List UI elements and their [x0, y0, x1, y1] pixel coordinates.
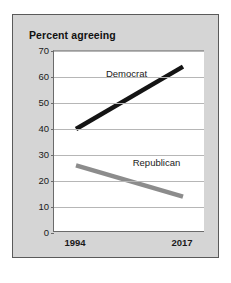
chart-panel: Percent agreeing 706050403020100 1994201… [12, 14, 219, 258]
y-axis-tick-mark [51, 51, 54, 52]
y-axis-tick-mark [51, 77, 54, 78]
y-axis-tick-labels: 706050403020100 [25, 50, 49, 232]
gridline [54, 181, 204, 182]
gridline [54, 155, 204, 156]
gridline [54, 129, 204, 130]
x-axis-tick-label: 2017 [171, 237, 192, 248]
x-axis-tick-label: 1994 [64, 237, 85, 248]
y-axis-tick-mark [51, 233, 54, 234]
y-axis-tick-mark [51, 181, 54, 182]
gridline [54, 103, 204, 104]
series-lines [54, 51, 205, 233]
series-label-republican: Republican [133, 157, 181, 168]
y-axis-tick-label: 60 [38, 71, 49, 82]
y-axis-tick-label: 40 [38, 123, 49, 134]
y-axis-tick-mark [51, 129, 54, 130]
y-axis-tick-mark [51, 103, 54, 104]
gridline [54, 207, 204, 208]
gridline [54, 51, 204, 52]
series-label-democrat: Democrat [106, 67, 147, 78]
y-axis-tick-label: 10 [38, 201, 49, 212]
y-axis-tick-label: 30 [38, 149, 49, 160]
y-axis-tick-label: 0 [44, 227, 49, 238]
y-axis-tick-label: 70 [38, 45, 49, 56]
chart-title: Percent agreeing [29, 29, 116, 41]
y-axis-tick-label: 50 [38, 97, 49, 108]
y-axis-tick-mark [51, 155, 54, 156]
y-axis-tick-label: 20 [38, 175, 49, 186]
y-axis-tick-mark [51, 207, 54, 208]
